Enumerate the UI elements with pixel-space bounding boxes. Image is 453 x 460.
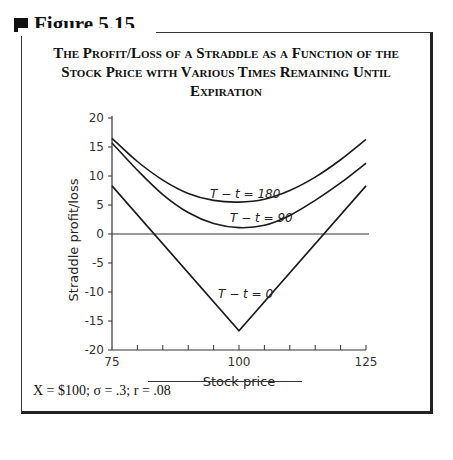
- y-tick-label: 0: [96, 227, 104, 241]
- x-tick-label: 75: [104, 355, 119, 369]
- y-tick-label: 5: [96, 198, 104, 212]
- y-tick-label: 15: [89, 140, 104, 154]
- y-axis-label: Straddle profit/loss: [66, 178, 81, 301]
- y-tick-label: -5: [92, 256, 104, 270]
- curve-label: T − t = 90: [230, 211, 293, 225]
- curve-label: T − t = 0: [218, 287, 273, 301]
- curve-label: T − t = 180: [210, 187, 281, 201]
- y-tick-label: 20: [89, 111, 104, 125]
- parameters-note: X = $100; σ = .3; r = .08: [33, 383, 171, 399]
- note-divider: [148, 381, 302, 382]
- y-tick-label: 10: [89, 169, 104, 183]
- y-tick-label: -10: [84, 285, 104, 299]
- x-tick-label: 125: [355, 355, 378, 369]
- series-line: [112, 186, 366, 331]
- y-tick-label: -20: [84, 343, 104, 357]
- y-tick-label: -15: [84, 314, 104, 328]
- x-tick-label: 100: [228, 355, 251, 369]
